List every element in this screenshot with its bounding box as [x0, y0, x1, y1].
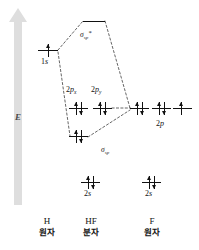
column-symbol-h: H — [27, 216, 67, 227]
level-hf-2py — [93, 108, 112, 109]
column-symbol-hf: HF — [71, 216, 111, 227]
column-caption-text-h: 원자 — [27, 227, 67, 238]
diagram-vector-layer — [0, 0, 199, 250]
electron-hf2px-up — [76, 102, 77, 115]
level-f-2p-b — [152, 108, 171, 109]
level-sigma-sp-star — [83, 21, 105, 22]
electron-f2pc-up — [181, 102, 182, 115]
column-caption-h: H 원자 — [27, 216, 67, 238]
label-f-2s: 2s — [145, 190, 152, 198]
electron-hf2py-down — [105, 102, 106, 115]
column-caption-text-hf: 분자 — [71, 227, 111, 238]
electron-f2s-down — [154, 176, 155, 189]
label-hf-2px: 2px — [66, 86, 76, 94]
level-hf-2s — [81, 182, 100, 183]
label-sigma-sp: σsp — [101, 146, 109, 154]
column-caption-f: F 원자 — [132, 216, 172, 238]
line-sigma-bond-to-f2p — [88, 110, 130, 137]
label-hf-2py: 2py — [91, 86, 101, 94]
electron-hf2px-down — [81, 102, 82, 115]
electron-hf2s-up — [88, 176, 89, 189]
energy-axis-label: E — [15, 112, 21, 122]
energy-axis-arrow — [9, 8, 27, 205]
correlation-lines — [58, 21, 130, 137]
level-sigma-sp — [69, 136, 88, 137]
column-caption-text-f: 원자 — [132, 227, 172, 238]
electron-sigma-sp-up — [76, 130, 77, 143]
f2p-orbital: p — [160, 119, 164, 128]
label-h-1s: 1s — [41, 58, 48, 66]
level-f-2p-a — [130, 108, 149, 109]
level-f-2p-c — [173, 108, 192, 109]
line-sigma-star-to-f2p — [105, 21, 130, 108]
label-hf-2s: 2s — [84, 190, 91, 198]
level-f-2s — [142, 182, 161, 183]
label-sigma-sp-star: σsp* — [80, 31, 91, 39]
electron-hf2s-down — [93, 176, 94, 189]
f2s-orbital: s — [149, 189, 152, 198]
column-caption-hf: HF 분자 — [71, 216, 111, 238]
hf2s-orbital: s — [88, 189, 91, 198]
electron-sigma-sp-down — [81, 130, 82, 143]
electron-f2pa-up — [137, 102, 138, 115]
electron-f2s-up — [149, 176, 150, 189]
label-f-2p: 2p — [156, 120, 164, 128]
sigma-bond-subscript: sp — [105, 150, 109, 155]
electron-hf2py-up — [100, 102, 101, 115]
column-symbol-f: F — [132, 216, 172, 227]
electron-f2pb-down — [164, 102, 165, 115]
electron-h1s-up — [48, 44, 49, 57]
h1s-orbital: s — [45, 57, 48, 66]
sigma-star-superscript: * — [88, 29, 91, 36]
mo-diagram-figure: E σsp* 1s 2px 2py 2p σsp 2s — [0, 0, 199, 250]
py-subscript: y — [99, 89, 101, 95]
px-subscript: x — [74, 89, 76, 95]
line-h1s-to-sigma-bond — [58, 52, 70, 136]
electron-f2pb-up — [159, 102, 160, 115]
electron-f2pa-down — [142, 102, 143, 115]
level-hf-2px — [69, 108, 88, 109]
